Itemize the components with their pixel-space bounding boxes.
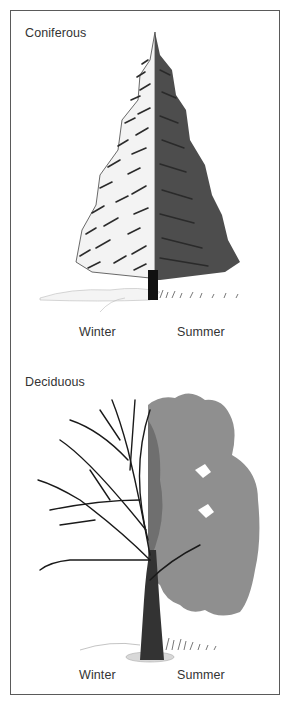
- coniferous-winter-caption: Winter: [79, 325, 116, 339]
- coniferous-summer-caption: Summer: [177, 325, 225, 339]
- tree-illustrations: [0, 0, 297, 702]
- coniferous-tree-illustration: [40, 32, 240, 312]
- deciduous-title: Deciduous: [25, 375, 85, 389]
- deciduous-summer-caption: Summer: [177, 668, 225, 682]
- deciduous-winter-caption: Winter: [79, 668, 116, 682]
- deciduous-tree-illustration: [38, 393, 259, 662]
